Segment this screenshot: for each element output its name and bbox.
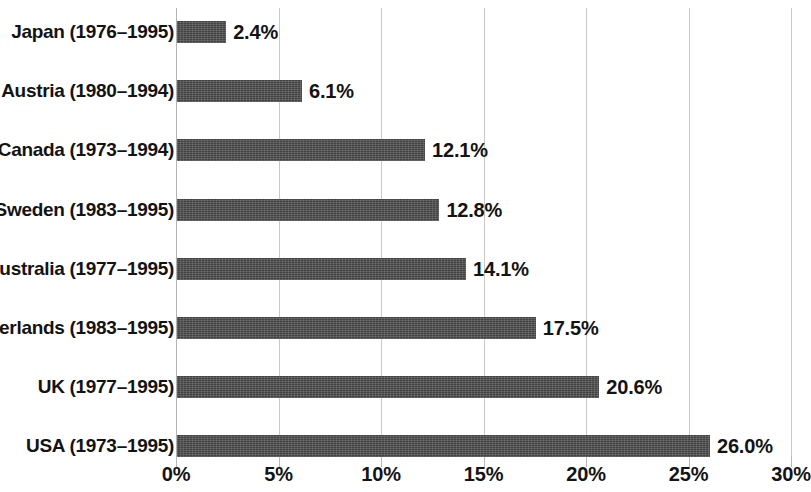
bar-row: Canada (1973–1994)12.1% <box>0 138 809 162</box>
bar-row: Australia (1977–1995)14.1% <box>0 257 809 281</box>
bar-row: UK (1977–1995)20.6% <box>0 375 809 399</box>
category-label: Austria (1980–1994) <box>1 79 174 103</box>
bar-row: Sweden (1983–1995)12.8% <box>0 198 809 222</box>
bar-value-label: 12.1% <box>432 138 488 162</box>
bar <box>177 139 425 161</box>
bar-row: Japan (1976–1995)2.4% <box>0 20 809 44</box>
bar <box>177 21 226 43</box>
x-axis-tick-label: 0% <box>162 463 191 486</box>
category-label: Netherlands (1983–1995) <box>0 316 174 340</box>
bar-row: Austria (1980–1994)6.1% <box>0 79 809 103</box>
category-label: Sweden (1983–1995) <box>0 198 174 222</box>
x-axis-tick-label: 15% <box>464 463 503 486</box>
category-label: UK (1977–1995) <box>38 375 174 399</box>
bar-value-label: 26.0% <box>717 434 773 458</box>
bar <box>177 199 439 221</box>
bar <box>177 258 466 280</box>
category-label: Japan (1976–1995) <box>11 20 174 44</box>
x-axis-tick-label: 10% <box>361 463 400 486</box>
category-label: Canada (1973–1994) <box>0 138 174 162</box>
bar-row: USA (1973–1995)26.0% <box>0 434 809 458</box>
category-label: Australia (1977–1995) <box>0 257 174 281</box>
category-label: USA (1973–1995) <box>26 434 174 458</box>
x-axis-tick-label: 30% <box>771 463 810 486</box>
bar <box>177 376 599 398</box>
x-axis-tick-label: 5% <box>264 463 293 486</box>
bar <box>177 317 536 339</box>
bar-value-label: 12.8% <box>446 198 502 222</box>
bar-value-label: 2.4% <box>233 20 278 44</box>
x-axis-tick-label: 25% <box>669 463 708 486</box>
bar <box>177 80 302 102</box>
x-axis-tick-label: 20% <box>566 463 605 486</box>
bar-value-label: 20.6% <box>606 375 662 399</box>
bar <box>177 435 710 457</box>
bar-value-label: 14.1% <box>473 257 529 281</box>
bar-row: Netherlands (1983–1995)17.5% <box>0 316 809 340</box>
bar-value-label: 17.5% <box>543 316 599 340</box>
bar-value-label: 6.1% <box>309 79 354 103</box>
